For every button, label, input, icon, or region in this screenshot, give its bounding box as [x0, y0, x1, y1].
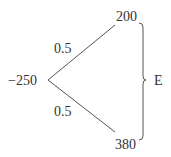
outcome-bracket	[139, 23, 146, 140]
lower-probability: 0.5	[54, 105, 72, 119]
upper-outcome: 200	[116, 10, 137, 24]
bracket-label: E	[154, 74, 163, 88]
lower-outcome: 380	[115, 138, 136, 152]
root-value: −250	[8, 74, 37, 88]
upper-probability: 0.5	[54, 42, 72, 56]
